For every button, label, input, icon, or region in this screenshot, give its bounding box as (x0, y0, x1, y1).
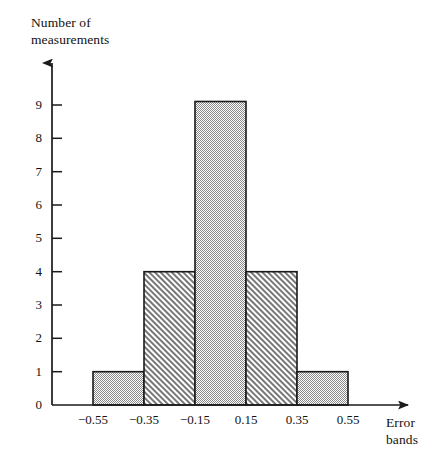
bars-group (93, 102, 348, 406)
bar-2 (195, 102, 246, 406)
y-axis-ticks (52, 105, 62, 372)
bar-3 (246, 272, 297, 405)
plot-area (0, 0, 436, 463)
bar-1 (144, 272, 195, 405)
bar-4 (297, 372, 348, 405)
histogram-chart: Number of measurements Error bands 0 1 2… (0, 0, 436, 463)
bar-0 (93, 372, 144, 405)
